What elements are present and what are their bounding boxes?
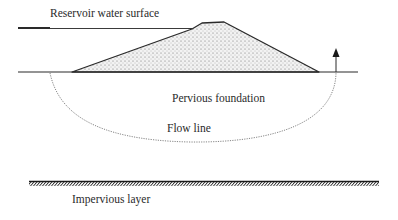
reservoir-water-surface [18, 28, 192, 29]
impervious-layer [29, 182, 379, 187]
flow-line-label: Flow line [167, 122, 211, 134]
pervious-foundation-label: Pervious foundation [172, 92, 265, 104]
dam-seepage-diagram: Reservoir water surface Pervious foundat… [0, 0, 398, 220]
reservoir-label: Reservoir water surface [50, 7, 159, 19]
impervious-layer-label: Impervious layer [72, 193, 150, 206]
exit-flow-arrow-icon [333, 48, 340, 72]
dam-embankment [72, 22, 319, 72]
